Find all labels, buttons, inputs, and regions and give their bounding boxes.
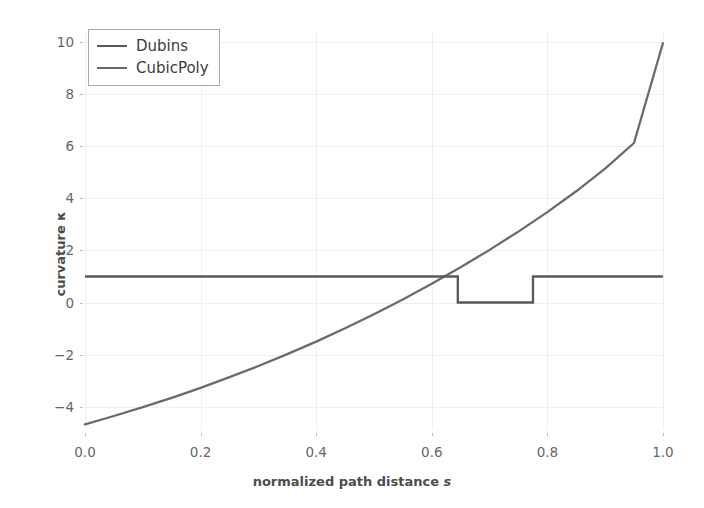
xtick-label: 0.2	[161, 444, 241, 460]
xtick-mark	[316, 433, 317, 436]
chart-figure: 10 8 6 4 2 0 −2 −4 0.0 0.2 0.4 0.6	[0, 0, 704, 508]
cubicpoly-path	[85, 43, 663, 424]
y-axis-label-symbol: κ	[53, 211, 68, 220]
xtick-label: 0.4	[276, 444, 356, 460]
xtick-mark	[85, 433, 86, 436]
xtick-mark	[201, 433, 202, 436]
ytick-mark	[80, 407, 83, 408]
plot-area	[85, 32, 663, 430]
ytick-label: −2	[54, 347, 74, 363]
ytick-label: −4	[54, 399, 74, 415]
ytick-mark	[80, 198, 83, 199]
ytick-label: 0	[65, 295, 74, 311]
legend-item-dubins[interactable]: Dubins	[97, 35, 209, 57]
ytick-mark	[80, 303, 83, 304]
legend-swatch-dubins	[97, 45, 127, 47]
y-axis-label-text: curvature	[53, 221, 68, 297]
ytick-label: 8	[65, 86, 74, 102]
xtick-mark	[547, 433, 548, 436]
xtick-label: 0.0	[45, 444, 125, 460]
legend[interactable]: Dubins CubicPoly	[88, 29, 220, 86]
legend-label-cubicpoly: CubicPoly	[136, 59, 209, 77]
xtick-mark	[663, 433, 664, 436]
legend-swatch-cubicpoly	[97, 67, 127, 69]
x-axis-label-text: normalized path distance	[253, 474, 444, 489]
ytick-label: 4	[65, 190, 74, 206]
dubins-path	[85, 277, 663, 303]
xtick-label: 1.0	[623, 444, 703, 460]
ytick-mark	[80, 250, 83, 251]
x-axis-label-symbol: s	[444, 474, 452, 489]
xtick-mark	[432, 433, 433, 436]
series-paths	[85, 32, 663, 430]
xtick-label: 0.8	[507, 444, 587, 460]
ytick-label: 6	[65, 138, 74, 154]
ytick-mark	[80, 355, 83, 356]
xtick-label: 0.6	[392, 444, 472, 460]
gridline-v	[663, 32, 664, 430]
legend-item-cubicpoly[interactable]: CubicPoly	[97, 57, 209, 79]
legend-label-dubins: Dubins	[136, 37, 188, 55]
ytick-label: 10	[57, 34, 74, 50]
x-axis-label: normalized path distance s	[0, 474, 704, 489]
ytick-mark	[80, 42, 83, 43]
ytick-mark	[80, 146, 83, 147]
ytick-mark	[80, 94, 83, 95]
y-axis-label: curvature κ	[53, 211, 68, 296]
